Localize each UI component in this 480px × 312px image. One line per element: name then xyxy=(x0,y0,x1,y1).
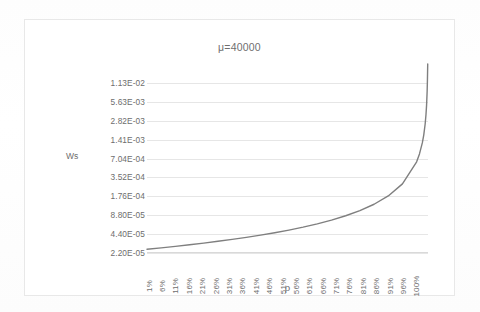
series-line-chart xyxy=(147,64,428,253)
gridline xyxy=(147,253,428,254)
y-tick-label: 4.40E-05 xyxy=(111,229,145,239)
y-tick-label: 1.41E-03 xyxy=(111,135,145,145)
y-tick-label: 2.20E-05 xyxy=(111,248,145,258)
x-axis-title: ρ xyxy=(147,282,428,293)
y-tick-label: 1.13E-02 xyxy=(111,78,145,88)
series-path-ws xyxy=(147,64,428,249)
y-tick-label: 5.63E-03 xyxy=(111,97,145,107)
y-tick-label: 3.52E-04 xyxy=(111,172,145,182)
chart-frame: μ=40000 Ws 1.13E-025.63E-032.82E-031.41E… xyxy=(24,19,455,296)
y-tick-label: 1.76E-04 xyxy=(111,191,145,201)
y-axis-title: Ws xyxy=(66,151,78,161)
y-tick-label: 2.82E-03 xyxy=(111,116,145,126)
plot-area xyxy=(147,64,428,253)
y-tick-label: 8.80E-05 xyxy=(111,210,145,220)
y-axis-tick-labels: 1.13E-025.63E-032.82E-031.41E-037.04E-04… xyxy=(87,64,145,253)
y-tick-label: 7.04E-04 xyxy=(111,154,145,164)
chart-title: μ=40000 xyxy=(25,41,454,53)
